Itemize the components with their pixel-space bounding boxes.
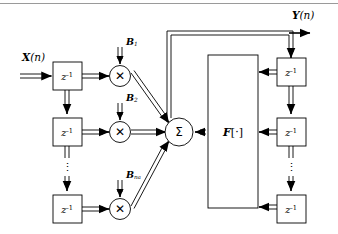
- ff-link-dots-3: [65, 176, 69, 191]
- fb-link-dots-3: [289, 176, 293, 191]
- ff-chain-ellipsis: ⋮: [62, 162, 73, 173]
- coef-input-arrow-1: [118, 47, 122, 64]
- coefficient-label-1: B1: [126, 37, 138, 48]
- ff-link-2-dots: [65, 146, 69, 158]
- fb-tap-line-3: [259, 205, 277, 209]
- nonlinearity-to-sum-line: [195, 130, 206, 134]
- multiply-icon-2: ✕: [115, 126, 125, 138]
- nonlinearity-label: F[·]: [223, 127, 243, 138]
- coef-input-arrow-3: [118, 180, 122, 197]
- ff-link-1-2: [65, 90, 69, 114]
- fb-link-1-2: [289, 86, 293, 114]
- ff-tap-line-1: [82, 74, 109, 78]
- ff-delay-label-3: z-1: [61, 205, 73, 215]
- ff-delay-label-1: z-1: [61, 72, 73, 82]
- summation-symbol: Σ: [175, 126, 183, 138]
- coefficient-label-2: B2: [126, 93, 138, 104]
- fb-link-2-dots: [289, 146, 293, 158]
- ff-tap-line-2: [82, 130, 109, 134]
- diagram-vector-layer: [0, 0, 338, 234]
- fb-delay-label-1: z-1: [285, 68, 297, 78]
- fb-tap-line-1: [259, 70, 277, 74]
- input-signal-line: [20, 74, 52, 78]
- ff-delay-label-2: z-1: [61, 128, 73, 138]
- fb-tap-line-2: [259, 130, 277, 134]
- fb-delay-label-2: z-1: [285, 128, 297, 138]
- output-tap-to-fb-delay-1: [289, 31, 293, 58]
- multiply-icon-3: ✕: [115, 203, 125, 215]
- ff-tap-line-3: [82, 207, 109, 211]
- coefficient-label-3: Bna: [126, 170, 141, 181]
- coef-input-arrow-2: [118, 103, 122, 120]
- output-signal-label: Y(n): [292, 10, 314, 21]
- multiply-icon-1: ✕: [115, 70, 125, 82]
- sum-input-line-2: [131, 130, 166, 134]
- fb-delay-label-3: z-1: [285, 205, 297, 215]
- input-signal-label: X(n): [22, 52, 45, 63]
- diagram-canvas: X(n) Y(n) z-1 z-1 z-1 B1 B2 Bna ✕ ✕ ✕ Σ …: [0, 0, 338, 234]
- fb-chain-ellipsis: ⋮: [286, 162, 297, 173]
